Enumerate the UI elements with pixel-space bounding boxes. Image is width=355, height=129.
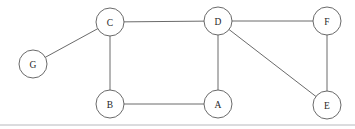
- graph-edge-d-e: [229, 30, 316, 97]
- graph-canvas: GCDFBAE: [0, 0, 355, 129]
- graph-node-b[interactable]: B: [96, 90, 124, 118]
- graph-node-f[interactable]: F: [313, 7, 341, 35]
- node-label-g: G: [30, 60, 37, 70]
- node-label-c: C: [107, 18, 113, 28]
- edge-layer: [45, 21, 327, 104]
- node-label-e: E: [324, 101, 330, 111]
- graph-node-a[interactable]: A: [204, 90, 232, 118]
- graph-node-e[interactable]: E: [313, 91, 341, 119]
- graph-node-g[interactable]: G: [19, 50, 47, 78]
- node-label-f: F: [324, 17, 329, 27]
- graph-diagram: GCDFBAE: [0, 0, 355, 129]
- graph-edge-c-d: [124, 21, 204, 22]
- node-label-d: D: [215, 17, 222, 27]
- node-layer: GCDFBAE: [19, 7, 341, 119]
- node-label-a: A: [215, 100, 222, 110]
- node-label-b: B: [107, 100, 113, 110]
- graph-edge-g-c: [45, 29, 97, 58]
- graph-node-c[interactable]: C: [96, 8, 124, 36]
- graph-node-d[interactable]: D: [204, 7, 232, 35]
